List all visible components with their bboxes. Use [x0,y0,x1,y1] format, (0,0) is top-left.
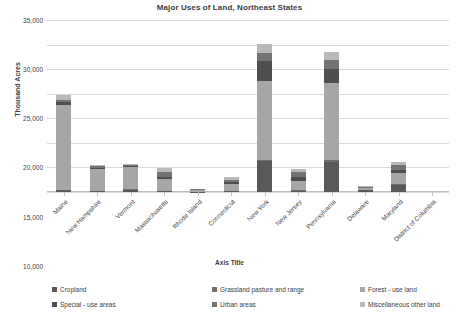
x-axis-label-slot: Delaware [349,196,383,256]
legend-item[interactable]: Forest - use land [360,286,452,293]
bar-segment[interactable] [324,69,339,83]
bar-segment[interactable] [324,52,339,60]
bar-slot [315,20,349,192]
legend-label: Special - use areas [60,301,116,308]
x-axis-label-slot: Pennsylvania [315,196,349,256]
legend-label: Miscellaneous other land [368,301,440,308]
x-axis-category-label: Maryland [380,198,404,222]
bar-slot [215,20,249,192]
bar-segment[interactable] [90,169,105,191]
bar-slot [81,20,115,192]
bar-slot [47,20,81,192]
legend-swatch-icon [52,287,57,292]
chart-title: Major Uses of Land, Northeast States [0,3,459,12]
bar-slot [181,20,215,192]
bar-series-layer [47,20,449,192]
bar-segment[interactable] [257,161,272,192]
bar-slot [382,20,416,192]
bar-segment[interactable] [56,105,71,190]
stacked-bar[interactable] [257,44,272,192]
bar-segment[interactable] [257,44,272,53]
stacked-bar[interactable] [324,52,339,192]
x-axis-title: Axis Title [0,259,459,266]
legend-swatch-icon [52,302,57,307]
legend-item[interactable]: Grassland pasture and range [212,286,360,293]
legend-item[interactable]: Cropland [52,286,212,293]
y-axis-tick-label: 35,000 [23,17,43,24]
x-axis-label-slot: District of Columbia [416,196,450,256]
bar-segment[interactable] [391,173,406,185]
legend-swatch-icon [212,302,217,307]
bar-segment[interactable] [257,81,272,159]
y-axis-tick-label: 30,000 [23,66,43,73]
legend-label: Forest - use land [368,286,417,293]
chart-legend: CroplandGrassland pasture and rangeFores… [52,282,452,312]
bar-segment[interactable] [391,185,406,192]
x-axis-labels: MaineNew HampshireVermontMassachusettsRh… [47,196,449,256]
stacked-bar[interactable] [123,164,138,192]
bar-segment[interactable] [324,60,339,69]
legend-swatch-icon [212,287,217,292]
x-axis-category-label: Maine [51,198,68,215]
stacked-bar[interactable] [224,177,239,192]
bar-segment[interactable] [257,53,272,60]
bar-slot [416,20,450,192]
y-axis-title: Thousand Acres [14,45,21,135]
bar-slot [349,20,383,192]
plot-area: 35,00030,00025,00020,00015,00010,0005,00… [47,20,449,192]
y-axis-tick-label: 25,000 [23,115,43,122]
y-axis-tick-label: 20,000 [23,164,43,171]
x-axis-category-label: Delaware [346,198,370,222]
stacked-bar[interactable] [90,165,105,192]
stacked-bar[interactable] [391,162,406,192]
bar-segment[interactable] [324,162,339,192]
stacked-bar[interactable] [56,95,71,192]
legend-label: Grassland pasture and range [220,286,304,293]
x-axis-label-slot: New Hampshire [81,196,115,256]
bar-segment[interactable] [157,179,172,191]
x-axis-label-slot: New York [248,196,282,256]
bar-slot [248,20,282,192]
legend-label: Cropland [60,286,86,293]
legend-swatch-icon [360,287,365,292]
bar-segment[interactable] [291,181,306,190]
legend-swatch-icon [360,302,365,307]
legend-label: Urban areas [220,301,256,308]
x-axis-category-label: New York [245,198,269,222]
bar-slot [282,20,316,192]
chart-container: Major Uses of Land, Northeast States Tho… [0,0,459,313]
bar-segment[interactable] [257,61,272,82]
x-axis-label-slot: Connecticut [215,196,249,256]
legend-item[interactable]: Urban areas [212,301,360,308]
legend-item[interactable]: Special - use areas [52,301,212,308]
bar-segment[interactable] [123,167,138,189]
x-axis-category-label: Vermont [114,198,136,220]
bar-segment[interactable] [224,184,239,191]
legend-item[interactable]: Miscellaneous other land [360,301,452,308]
bar-segment[interactable] [324,83,339,160]
bar-slot [114,20,148,192]
stacked-bar[interactable] [157,168,172,192]
y-axis-tick-label: 15,000 [23,213,43,220]
bar-slot [148,20,182,192]
stacked-bar[interactable] [291,169,306,192]
